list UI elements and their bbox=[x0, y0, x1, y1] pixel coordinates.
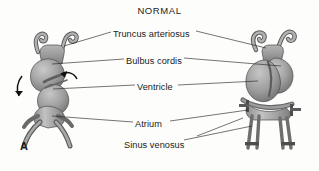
label-atrium: Atrium bbox=[135, 119, 162, 129]
right-heart-tube bbox=[239, 32, 301, 148]
label-ventricle: Ventricle bbox=[137, 82, 173, 92]
rotation-arrow-left bbox=[15, 76, 23, 96]
heart-development-figure: NORMAL bbox=[0, 0, 319, 171]
label-sinus-venosus: Sinus venosus bbox=[124, 140, 184, 150]
label-truncus-arteriosus: Truncus arteriosus bbox=[113, 29, 190, 39]
panel-letter-a: A bbox=[20, 140, 28, 152]
left-heart-tube bbox=[24, 33, 77, 146]
label-bulbus-cordis: Bulbus cordis bbox=[126, 56, 182, 66]
